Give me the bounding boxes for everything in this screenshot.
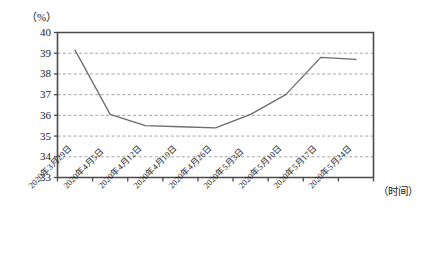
y-axis-tick-label: 40 xyxy=(29,27,51,38)
data-series-line xyxy=(75,50,356,128)
y-axis-tick-label: 36 xyxy=(29,110,51,121)
axis-ticks xyxy=(54,33,374,182)
y-axis-tick-label: 35 xyxy=(29,131,51,142)
plot-area xyxy=(0,0,424,260)
y-axis-tick-label: 39 xyxy=(29,48,51,59)
y-axis-tick-label: 38 xyxy=(29,68,51,79)
series-polyline xyxy=(75,50,356,128)
line-chart: （%） （时间） 3334353637383940 2020年3月29日2020… xyxy=(0,0,424,260)
y-axis-tick-label: 37 xyxy=(29,89,51,100)
